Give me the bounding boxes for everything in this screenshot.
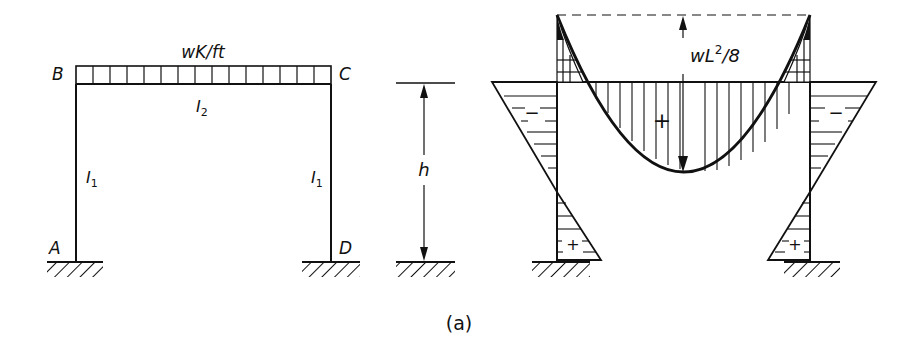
beam-inertia-label: I2 [196,97,208,119]
left-column-negative-moment [492,82,557,192]
beam-positive-moment-hatch [596,82,789,171]
height-label: h [418,159,429,180]
right-column-positive-sign: + [788,235,801,254]
joint-b-label: B [52,64,64,84]
right-column-negative-moment [810,82,876,192]
beam-positive-sign: + [653,108,671,133]
figure-caption: (a) [446,312,472,334]
joint-a-label: A [48,238,61,258]
left-column-positive-sign: + [566,235,579,254]
joint-d-label: D [339,238,352,258]
portal-frame-diagram: wK/ft B C A D I2 I1 I1 h [0,0,917,351]
fixed-support-a [47,262,103,277]
left-column-negative-sign: − [524,102,539,123]
distributed-load [76,66,331,84]
right-column-negative-sign: − [828,102,843,123]
load-label: wK/ft [181,42,226,62]
height-dimension [396,83,455,277]
arrow-up-icon [420,84,428,98]
arrow-down-icon [420,247,428,261]
column-ab-inertia-label: I1 [86,168,98,190]
column-dc-inertia-label: I1 [311,168,323,190]
joint-c-label: C [339,64,351,84]
fixed-support-d [302,262,360,277]
midspan-moment-label: wL2/8 [690,43,740,66]
arrow-up-icon [679,16,687,30]
moment-diagram [492,15,876,277]
